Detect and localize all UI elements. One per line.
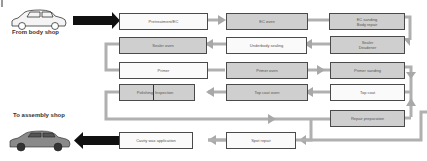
step-label: EC oven (259, 19, 274, 24)
polishing-label: Polishing (120, 90, 155, 95)
step-label: Repair preparation (351, 116, 384, 121)
step-label: Pretreatment/EC (149, 19, 179, 24)
step-sealer-deadener: Sealer Deadener (330, 36, 405, 54)
step-repair-preparation: Repair preparation (330, 110, 405, 127)
step-label: Sealer Deadener (359, 40, 377, 50)
step-ec-oven: EC oven (226, 13, 308, 30)
step-cavity-wax-application: Cavity wax application (119, 132, 193, 149)
step-label: Primer (158, 68, 170, 73)
step-label: Sealer oven (152, 43, 173, 48)
car-from-body-shop-icon (12, 10, 66, 30)
step-primer-oven: Primer oven (226, 62, 308, 79)
step-ec-sanding-body-repair: EC sanding Body repair (329, 13, 405, 30)
step-top-coat-oven: Top coat oven (226, 84, 308, 101)
step-primer: Primer (119, 62, 208, 79)
step-label: EC sanding Body repair (357, 17, 378, 27)
step-label: Primer sanding (354, 68, 381, 73)
step-label: Top coat oven (255, 90, 280, 95)
step-label: Cavity wax application (136, 138, 176, 143)
box-divider (153, 85, 154, 100)
step-label: Primer oven (256, 68, 278, 73)
step-top-coat: Top coat (330, 84, 405, 101)
inspection-label: Inspection (155, 90, 196, 95)
step-primer-sanding: Primer sanding (330, 62, 405, 79)
step-sealer-oven: Sealer oven (119, 37, 207, 54)
step-label: Spot repair (251, 138, 271, 143)
step-label: Top coat (360, 90, 375, 95)
step-pretreatment-ec: Pretreatment/EC (119, 13, 208, 30)
to-assembly-shop-label: To assembly shop (13, 112, 65, 118)
car-to-assembly-shop-icon (10, 131, 70, 151)
from-body-shop-label: From body shop (12, 29, 59, 35)
step-label: Underbody sealing (250, 43, 283, 48)
step-underbody-sealing: Underbody sealing (226, 37, 307, 54)
step-spot-repair: Spot repair (226, 132, 296, 149)
step-polishing-inspection: Polishing Inspection (119, 84, 195, 101)
